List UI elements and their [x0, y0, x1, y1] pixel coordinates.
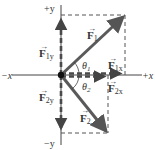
pos-x-label: +x [142, 70, 154, 81]
pos-y-label: +y [44, 3, 55, 14]
label-f1y: F1y → [39, 42, 54, 61]
label-theta2: θ2 [82, 81, 91, 94]
vector-diagram: +y −y −x +x F1 → F2 → F1y → F1x → F2x → … [0, 0, 155, 150]
label-f1x: F1x → [108, 54, 123, 73]
svg-text:→: → [109, 77, 117, 86]
origin-point [58, 72, 64, 78]
svg-text:→: → [109, 54, 117, 63]
label-theta1: θ1 [82, 60, 90, 73]
label-f1: F1 → [87, 24, 98, 43]
neg-x-label: −x [1, 70, 13, 81]
neg-y-label: −y [44, 138, 55, 149]
svg-text:→: → [40, 42, 48, 51]
label-f2x: F2x → [108, 77, 123, 96]
svg-text:→: → [40, 86, 48, 95]
axes [12, 5, 142, 145]
svg-text:→: → [81, 106, 89, 115]
svg-text:→: → [88, 24, 96, 33]
label-f2y: F2y → [39, 86, 54, 105]
